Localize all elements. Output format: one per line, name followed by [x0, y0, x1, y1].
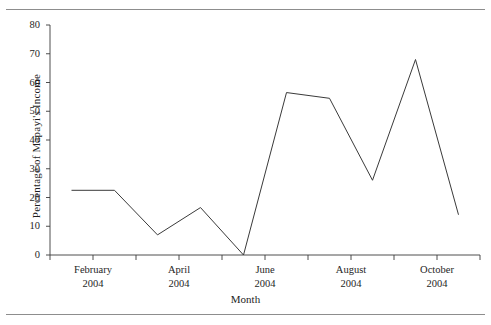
x-tick-label-year: 2004 — [168, 278, 190, 289]
x-axis-title: Month — [0, 293, 491, 305]
x-tick-label-year: 2004 — [336, 278, 366, 289]
y-tick-label: 80 — [18, 19, 40, 30]
data-line-income-percentage — [72, 60, 459, 256]
y-tick-label: 30 — [18, 163, 40, 174]
x-tick-label-month: February — [74, 264, 112, 275]
chart-series-group — [72, 60, 459, 256]
x-tick-label: April2004 — [168, 264, 190, 289]
x-tick-label: August2004 — [336, 264, 366, 289]
x-tick-label-year: 2004 — [74, 278, 112, 289]
y-tick-label: 70 — [18, 48, 40, 59]
x-tick-label-year: 2004 — [255, 278, 276, 289]
y-tick-label: 0 — [18, 249, 40, 260]
y-tick-label: 20 — [18, 192, 40, 203]
x-tick-label: February2004 — [74, 264, 112, 289]
y-tick-label: 40 — [18, 134, 40, 145]
x-tick-label-month: October — [420, 264, 454, 275]
y-tick-label: 60 — [18, 77, 40, 88]
x-tick-label-year: 2004 — [420, 278, 454, 289]
x-tick-label: October2004 — [420, 264, 454, 289]
y-tick-label: 50 — [18, 105, 40, 116]
x-tick-label-month: June — [255, 264, 276, 275]
x-tick-label: June2004 — [255, 264, 276, 289]
y-tick-label: 10 — [18, 220, 40, 231]
x-tick-label-month: August — [336, 264, 366, 275]
chart-figure: Percentage of Mapayi's Income Month 0102… — [0, 0, 491, 325]
x-tick-label-month: April — [168, 264, 190, 275]
